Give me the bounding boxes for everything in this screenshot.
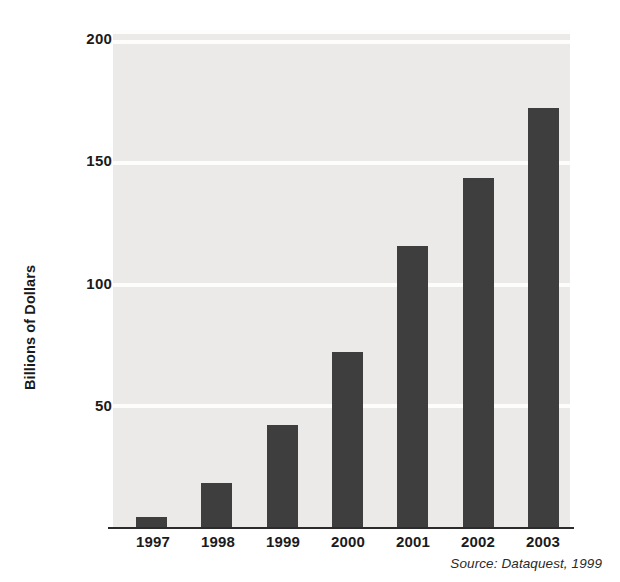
bar-2000 — [332, 352, 363, 527]
bar-1998 — [201, 483, 232, 527]
bar-1997 — [136, 517, 167, 527]
source-note: Source: Dataquest, 1999 — [450, 556, 602, 571]
y-tick-label-150: 150 — [52, 152, 112, 169]
bar-2002 — [463, 178, 494, 527]
gridline-150 — [113, 161, 570, 165]
bar-chart-figure: Billions of Dollars 200 150 100 50 1997 … — [0, 0, 620, 582]
plot-area — [113, 30, 570, 527]
x-axis-line — [108, 527, 574, 529]
y-tick-label-50: 50 — [52, 397, 112, 414]
gridline-top — [113, 30, 570, 34]
y-axis-title: Billions of Dollars — [22, 230, 42, 390]
x-tick-label-2001: 2001 — [381, 533, 445, 550]
y-tick-label-200: 200 — [52, 30, 112, 47]
x-tick-label-1997: 1997 — [121, 533, 185, 550]
x-tick-label-1998: 1998 — [186, 533, 250, 550]
y-tick-label-100: 100 — [52, 275, 112, 292]
gridline-100 — [113, 283, 570, 287]
x-tick-label-2000: 2000 — [316, 533, 380, 550]
x-tick-label-2003: 2003 — [511, 533, 575, 550]
x-tick-label-2002: 2002 — [446, 533, 510, 550]
bar-1999 — [267, 425, 298, 527]
gridline-200 — [113, 40, 570, 44]
bar-2003 — [528, 108, 559, 527]
bar-2001 — [397, 246, 428, 527]
x-tick-label-1999: 1999 — [251, 533, 315, 550]
